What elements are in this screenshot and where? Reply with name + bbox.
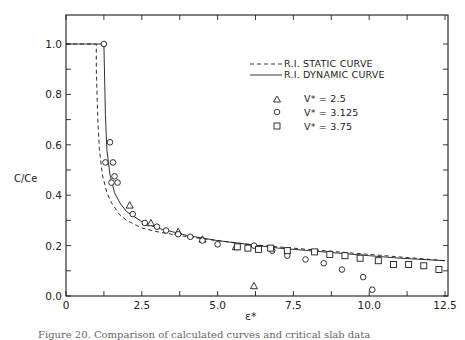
square-point: [234, 244, 240, 250]
y-tick-label: 0.4: [45, 189, 62, 201]
static-curve: [66, 44, 445, 261]
x-tick-label: 7.5: [285, 299, 302, 311]
square-point: [406, 262, 412, 268]
circle-point: [200, 238, 206, 244]
figure-caption: Figure 20. Comparison of calculated curv…: [38, 329, 465, 340]
square-point: [327, 251, 333, 257]
square-marker-icon: [274, 123, 280, 129]
square-point: [256, 246, 262, 252]
square-point: [436, 267, 442, 273]
x-tick-label: 12.5: [433, 299, 456, 311]
circle-point: [188, 234, 194, 240]
circle-point: [360, 274, 366, 280]
circle-point: [142, 220, 148, 226]
square-point: [268, 245, 274, 251]
x-axis-label: ε*: [245, 310, 257, 323]
triangle-point: [126, 202, 133, 208]
square-point: [421, 263, 427, 269]
x-tick-label: 5.0: [209, 299, 226, 311]
legend-static-label: R.I. STATIC CURVE: [284, 58, 373, 69]
square-point: [284, 248, 290, 254]
axes-frame: [66, 15, 448, 296]
square-point: [375, 258, 381, 264]
x-tick-label: 0: [63, 299, 70, 311]
y-tick-label: 0.0: [45, 290, 62, 302]
legend: R.I. STATIC CURVE R.I. DYNAMIC CURVE V* …: [250, 58, 385, 132]
tick-labels: 02.55.07.510.012.50.00.20.40.60.81.0: [45, 38, 456, 311]
legend-dynamic-label: R.I. DYNAMIC CURVE: [284, 69, 385, 80]
square-point: [312, 249, 318, 255]
circle-point: [101, 41, 107, 47]
legend-v1-label: V* = 2.5: [304, 93, 346, 104]
square-point: [390, 262, 396, 268]
circle-point: [110, 160, 116, 166]
data-points: [101, 41, 442, 292]
circle-point: [107, 139, 113, 145]
y-tick-label: 1.0: [45, 38, 62, 50]
circle-point: [163, 228, 169, 234]
circle-point: [109, 180, 115, 186]
curves: [66, 44, 445, 261]
circle-point: [303, 257, 309, 263]
triangle-point: [147, 219, 154, 225]
y-tick-label: 0.6: [45, 139, 62, 151]
legend-v2-label: V* = 3.125: [304, 107, 358, 118]
circle-marker-icon: [274, 109, 280, 115]
axes-border: [66, 15, 448, 296]
y-tick-label: 0.8: [45, 88, 62, 100]
x-tick-label: 2.5: [133, 299, 150, 311]
square-point: [342, 253, 348, 259]
y-axis-label: C/Ce: [14, 173, 38, 184]
dynamic-curve: [66, 44, 445, 261]
circle-point: [369, 287, 375, 293]
y-tick-label: 0.2: [45, 240, 62, 252]
circle-point: [339, 267, 345, 273]
chart-plot-area: 02.55.07.510.012.50.00.20.40.60.81.0 C/C…: [0, 0, 465, 330]
triangle-marker-icon: [274, 96, 281, 102]
triangle-point: [250, 282, 257, 288]
circle-point: [103, 160, 109, 166]
circle-point: [175, 231, 181, 237]
circle-point: [321, 260, 327, 266]
circle-point: [130, 211, 136, 217]
square-point: [245, 245, 251, 251]
circle-point: [154, 224, 160, 230]
x-tick-label: 10.0: [358, 299, 381, 311]
square-point: [357, 255, 363, 261]
legend-v3-label: V* = 3.75: [304, 121, 352, 132]
circle-point: [215, 242, 221, 248]
axis-ticks: [66, 15, 448, 296]
circle-point: [112, 174, 118, 180]
circle-point: [115, 180, 121, 186]
